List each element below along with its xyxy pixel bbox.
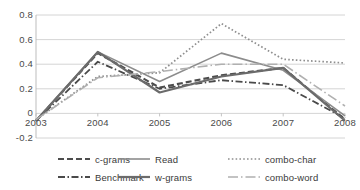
legend-item-w-grams[interactable]: w-grams <box>112 168 220 186</box>
legend-item-benchmark[interactable]: Benchmark <box>0 168 112 186</box>
plot-area: 0.80.60.40.20-0.2 2003200420052006200720… <box>0 0 352 148</box>
legend-item-read[interactable]: Read <box>112 150 220 168</box>
chart-legend: c-gramsReadcombo-charBenchmarkw-gramscom… <box>0 148 352 190</box>
legend-swatch-w-grams <box>118 172 150 182</box>
legend-swatch-c-grams <box>58 154 90 164</box>
x-axis-label: 2008 <box>325 117 360 128</box>
x-axis-label: 2005 <box>140 117 180 128</box>
legend-row: Benchmarkw-gramscombo-word <box>0 168 352 186</box>
legend-item-combo-word[interactable]: combo-word <box>220 168 352 186</box>
legend-swatch-combo-word <box>228 172 260 182</box>
x-axis-ticks: 200320042005200620072008 <box>0 0 352 148</box>
legend-row: c-gramsReadcombo-char <box>0 150 352 168</box>
legend-label: Read <box>155 154 178 165</box>
legend-item-c-grams[interactable]: c-grams <box>0 150 112 168</box>
legend-label: combo-word <box>265 172 318 183</box>
legend-item-combo-char[interactable]: combo-char <box>220 150 352 168</box>
legend-label: combo-char <box>265 154 316 165</box>
x-axis-label: 2003 <box>16 117 56 128</box>
legend-swatch-read <box>118 154 150 164</box>
legend-label: w-grams <box>155 172 192 183</box>
x-axis-label: 2006 <box>201 117 241 128</box>
legend-swatch-combo-char <box>228 154 260 164</box>
x-axis-label: 2004 <box>78 117 118 128</box>
x-axis-label: 2007 <box>263 117 303 128</box>
legend-swatch-benchmark <box>58 172 90 182</box>
